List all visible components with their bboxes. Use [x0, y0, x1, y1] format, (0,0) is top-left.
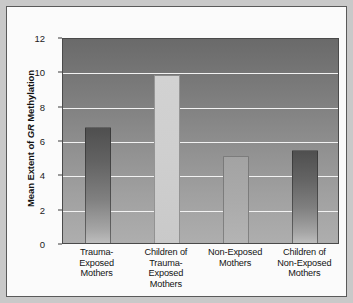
y-axis-tick-label: 4	[5, 170, 45, 181]
x-axis-category-label: Children ofNon-ExposedMothers	[272, 247, 337, 279]
bar	[223, 156, 249, 243]
y-axis-title-suffix: Methylation	[25, 70, 36, 124]
x-axis-category-label-line: Mothers	[272, 268, 337, 279]
x-axis-category-label: Non-ExposedMothers	[203, 247, 268, 268]
chart-frame: Mean Extent of GR Methylation 024681012 …	[6, 6, 347, 297]
plot-area	[62, 38, 339, 244]
gridline	[63, 73, 338, 74]
x-axis-category-label-line: Mothers	[64, 268, 129, 279]
x-axis-category-label-line: Children of	[272, 247, 337, 258]
bar	[85, 127, 111, 243]
x-axis-category-label-line: Non-Exposed	[203, 247, 268, 258]
figure-container: Mean Extent of GR Methylation 024681012 …	[0, 0, 353, 303]
bar	[292, 150, 318, 243]
x-axis-category-label: Trauma-ExposedMothers	[64, 247, 129, 279]
x-axis-category-label-line: Children of	[133, 247, 198, 258]
x-axis-category-label-line: Mothers	[203, 258, 268, 269]
y-axis-tick-label: 6	[5, 136, 45, 147]
y-axis-tick-label: 8	[5, 101, 45, 112]
x-axis-category-label-line: Trauma-Exposed	[64, 247, 129, 268]
x-axis-category-label-line: Trauma-	[133, 258, 198, 269]
x-axis-category-label: Children ofTrauma-ExposedMothers	[133, 247, 198, 289]
y-axis-tick-label: 0	[5, 239, 45, 250]
y-axis-tick-label: 2	[5, 204, 45, 215]
x-axis-category-label-line: Non-Exposed	[272, 258, 337, 269]
y-axis-tick-label: 12	[5, 33, 45, 44]
y-axis-tick-label: 10	[5, 67, 45, 78]
x-axis-category-label-line: Mothers	[133, 279, 198, 290]
bar	[154, 75, 180, 243]
gridline	[63, 108, 338, 109]
x-axis-category-label-line: Exposed	[133, 268, 198, 279]
